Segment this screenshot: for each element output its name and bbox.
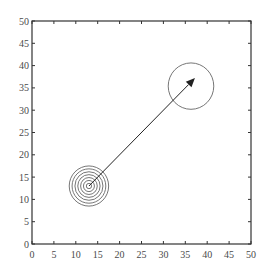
y-tick-label: 10 (19, 194, 29, 205)
x-tick-label: 10 (71, 249, 81, 260)
arrow (89, 78, 195, 186)
y-tick-label: 15 (19, 172, 29, 183)
arrow-shaft (89, 85, 189, 187)
y-tick-label: 30 (19, 105, 29, 116)
x-tick-label: 35 (180, 249, 190, 260)
x-tick-label: 20 (115, 249, 125, 260)
y-tick-label: 35 (19, 82, 29, 93)
x-tick-label: 40 (202, 249, 212, 260)
x-tick-label: 5 (51, 249, 56, 260)
y-axis-ticks: 05101520253035404550 (19, 16, 251, 250)
x-tick-label: 15 (93, 249, 103, 260)
x-tick-label: 25 (137, 249, 147, 260)
x-axis-ticks: 05101520253035404550 (30, 21, 257, 260)
x-tick-label: 50 (246, 249, 256, 260)
y-tick-label: 25 (19, 127, 29, 138)
y-tick-label: 5 (24, 216, 29, 227)
y-tick-label: 50 (19, 16, 29, 27)
y-tick-label: 0 (24, 239, 29, 250)
chart: 05101520253035404550 0510152025303540455… (0, 0, 270, 268)
y-tick-label: 40 (19, 60, 29, 71)
x-tick-label: 0 (30, 249, 35, 260)
x-tick-label: 45 (224, 249, 234, 260)
x-tick-label: 30 (158, 249, 168, 260)
y-tick-label: 45 (19, 38, 29, 49)
y-tick-label: 20 (19, 149, 29, 160)
